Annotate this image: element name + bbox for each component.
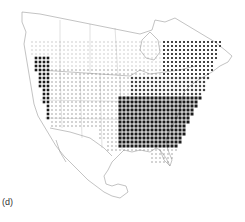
north-america-map bbox=[0, 0, 245, 222]
panel-label: (d) bbox=[2, 197, 13, 207]
map-figure: (d) bbox=[0, 0, 245, 222]
